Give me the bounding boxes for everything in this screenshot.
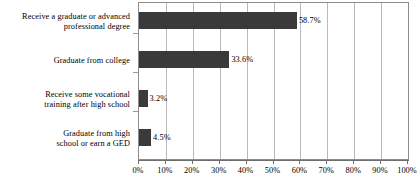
x-axis-line [138, 160, 409, 161]
gridline [327, 3, 328, 159]
x-axis-tick [219, 160, 220, 164]
x-axis-tick-labels: 0%10%20%30%40%50%60%70%80%90%100% [0, 166, 417, 180]
bar [139, 51, 229, 68]
x-axis-tick-label: 70% [319, 166, 334, 176]
x-axis-tick [299, 160, 300, 164]
x-axis-tick-label: 100% [397, 166, 417, 176]
category-label-line: Graduate from college [2, 56, 130, 66]
x-axis-tick-label: 0% [132, 166, 143, 176]
x-axis-tick [380, 160, 381, 164]
x-axis-tick-label: 50% [265, 166, 280, 176]
bar-value-label: 33.6% [231, 55, 253, 65]
category-label-line: school or earn a GED [2, 139, 130, 149]
category-label: Receive some vocational training after h… [2, 90, 130, 109]
bar [139, 90, 148, 107]
x-axis-tick [138, 160, 139, 164]
bar [139, 12, 297, 29]
x-axis-tick [407, 160, 408, 164]
bar-value-label: 58.7% [299, 16, 321, 26]
x-axis-tick-label: 40% [238, 166, 253, 176]
x-axis-tick-label: 60% [292, 166, 307, 176]
x-axis-tick-label: 10% [157, 166, 172, 176]
category-label-line: training after high school [2, 100, 130, 110]
bar-value-label: 4.5% [153, 133, 171, 143]
gridline [381, 3, 382, 159]
category-label: Receive a graduate or advanced professio… [2, 12, 130, 31]
x-axis-tick [273, 160, 274, 164]
category-label-line: Receive a graduate or advanced [2, 12, 130, 22]
category-label: Graduate from college [2, 56, 130, 66]
x-axis-tick [326, 160, 327, 164]
x-axis-tick [165, 160, 166, 164]
x-axis-tick [192, 160, 193, 164]
category-label-line: professional degree [2, 22, 130, 32]
category-axis: Receive a graduate or advanced professio… [0, 2, 135, 160]
bar [139, 129, 151, 146]
category-label-line: Graduate from high [2, 129, 130, 139]
gridline [354, 3, 355, 159]
x-axis-tick [246, 160, 247, 164]
x-axis-tick-label: 80% [345, 166, 360, 176]
category-label: Graduate from high school or earn a GED [2, 129, 130, 148]
bar-value-label: 3.2% [150, 94, 168, 104]
gridline [300, 3, 301, 159]
x-axis-tick-label: 20% [184, 166, 199, 176]
category-label-line: Receive some vocational [2, 90, 130, 100]
plot-area: 58.7%33.6%3.2%4.5% [138, 2, 409, 160]
x-axis-tick-label: 90% [372, 166, 387, 176]
x-axis-tick-label: 30% [211, 166, 226, 176]
x-axis-tick [353, 160, 354, 164]
bar-chart: Receive a graduate or advanced professio… [0, 0, 417, 182]
